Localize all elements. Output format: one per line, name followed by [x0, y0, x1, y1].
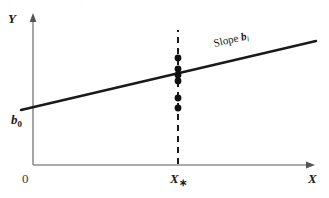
xstar-subscript: ∗ — [179, 177, 187, 188]
data-point — [175, 105, 182, 112]
data-point — [175, 72, 182, 79]
intercept-subscript: 0 — [18, 119, 23, 129]
xstar-symbol: X — [170, 171, 179, 186]
regression-line — [21, 41, 316, 110]
data-point — [175, 95, 182, 102]
origin-label: 0 — [22, 172, 29, 185]
intercept-label: b0 — [11, 113, 22, 129]
data-point — [175, 55, 182, 62]
plot-area — [0, 0, 329, 198]
x-axis-arrow-icon — [306, 162, 315, 169]
regression-line-figure: ·· ·· · Y X 0 b0 X∗ Slope bi — [0, 0, 329, 198]
x-axis-label: X — [308, 172, 317, 185]
y-axis-arrow-icon — [30, 13, 37, 22]
data-point — [175, 66, 182, 73]
y-axis-label: Y — [8, 12, 16, 25]
data-point — [175, 78, 182, 85]
xstar-tick-label: X∗ — [170, 172, 187, 188]
